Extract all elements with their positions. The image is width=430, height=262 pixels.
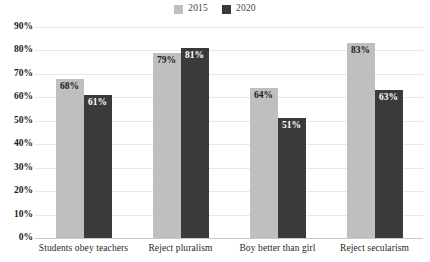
bar-2020-1[interactable]: 81%: [181, 48, 209, 238]
bar-2020-0[interactable]: 61%: [84, 95, 112, 238]
bar-2015-2[interactable]: 64%: [250, 88, 278, 238]
legend-item-2020[interactable]: 2020: [222, 4, 256, 14]
y-axis: 90%80%70%60%50%40%30%20%10%0%: [0, 27, 33, 238]
bar-group: 79%81%: [132, 27, 229, 238]
bar-value-label: 63%: [375, 93, 403, 103]
y-axis-tick: 0%: [0, 233, 33, 243]
bar-2015-3[interactable]: 83%: [347, 43, 375, 238]
legend-label-2015: 2015: [188, 4, 208, 14]
y-axis-tick: 80%: [0, 46, 33, 56]
y-axis-tick: 10%: [0, 210, 33, 220]
bar-groups: 68%61%79%81%64%51%83%63%: [35, 27, 423, 238]
x-axis-label: Reject secularism: [326, 243, 423, 253]
x-axis-label: Boy better than girl: [229, 243, 326, 253]
bar-value-label: 83%: [347, 46, 375, 56]
chart-legend: 2015 2020: [0, 2, 430, 16]
bar-value-label: 51%: [278, 121, 306, 131]
bar-2015-0[interactable]: 68%: [56, 79, 84, 238]
y-axis-tick: 90%: [0, 22, 33, 32]
x-axis-label: Reject pluralism: [132, 243, 229, 253]
bar-2020-2[interactable]: 51%: [278, 118, 306, 238]
bar-2020-3[interactable]: 63%: [375, 90, 403, 238]
legend-swatch-2015: [174, 5, 183, 14]
y-axis-tick: 50%: [0, 116, 33, 126]
bar-value-label: 81%: [181, 51, 209, 61]
bar-value-label: 64%: [250, 91, 278, 101]
y-axis-tick: 20%: [0, 186, 33, 196]
legend-swatch-2020: [222, 5, 231, 14]
y-axis-tick: 60%: [0, 93, 33, 103]
bar-value-label: 61%: [84, 98, 112, 108]
y-axis-tick: 40%: [0, 139, 33, 149]
bar-2015-1[interactable]: 79%: [153, 53, 181, 238]
bar-group: 68%61%: [35, 27, 132, 238]
y-axis-tick: 30%: [0, 163, 33, 173]
legend-label-2020: 2020: [236, 4, 256, 14]
bar-chart: 2015 2020 90%80%70%60%50%40%30%20%10%0% …: [0, 0, 430, 262]
legend-item-2015[interactable]: 2015: [174, 4, 208, 14]
bar-value-label: 79%: [153, 56, 181, 66]
bar-value-label: 68%: [56, 82, 84, 92]
bar-group: 83%63%: [326, 27, 423, 238]
x-axis-labels: Students obey teachersReject pluralismBo…: [35, 243, 423, 253]
y-axis-tick: 70%: [0, 69, 33, 79]
x-axis-label: Students obey teachers: [35, 243, 132, 253]
bar-group: 64%51%: [229, 27, 326, 238]
x-axis-line: [35, 238, 423, 239]
